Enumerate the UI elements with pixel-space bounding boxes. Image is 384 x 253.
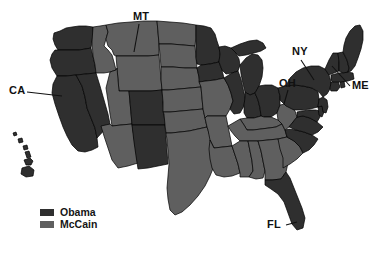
- legend-swatch-mccain: [40, 221, 54, 228]
- legend-swatch-obama: [40, 209, 54, 216]
- callout-text-oh: OH: [279, 77, 296, 89]
- callout-label-mt: MT: [133, 11, 149, 22]
- state-WA: [53, 26, 93, 50]
- state-TX: [166, 127, 216, 215]
- legend-item-obama: Obama: [40, 207, 130, 218]
- state-HI-5: [24, 158, 33, 165]
- state-NE: [161, 67, 201, 90]
- legend-label-obama: Obama: [60, 207, 96, 218]
- callout-label-oh: OH: [279, 78, 296, 89]
- state-WY: [116, 55, 162, 91]
- callout-label-ny: NY: [292, 46, 308, 57]
- state-SD: [159, 44, 197, 68]
- state-HI-6: [21, 166, 34, 177]
- state-CO: [129, 90, 165, 125]
- callout-label-ca: CA: [9, 85, 25, 96]
- state-HI-2: [18, 138, 23, 143]
- callout-label-me: ME: [352, 80, 369, 91]
- state-MI-up: [231, 40, 266, 56]
- legend-label-mccain: McCain: [60, 219, 97, 230]
- state-MN: [196, 25, 220, 65]
- callout-text-ca: CA: [9, 84, 25, 96]
- state-OR: [50, 48, 96, 76]
- state-HI-4: [25, 151, 31, 158]
- callout-text-ny: NY: [292, 45, 308, 57]
- state-CT: [330, 81, 340, 91]
- state-HI-3: [23, 145, 28, 150]
- callout-text-mt: MT: [133, 10, 149, 22]
- state-NM: [132, 125, 168, 169]
- callout-label-fl: FL: [267, 219, 281, 230]
- legend-item-mccain: McCain: [40, 219, 130, 230]
- callout-text-me: ME: [352, 79, 369, 91]
- callout-text-fl: FL: [267, 218, 281, 230]
- state-ND: [157, 21, 196, 46]
- map-legend: Obama McCain: [40, 207, 130, 231]
- state-HI: [13, 132, 17, 136]
- election-map-figure: MT CA NY OH ME FL Obama McCain: [0, 0, 384, 253]
- state-MT: [106, 21, 159, 56]
- state-KS: [162, 87, 203, 112]
